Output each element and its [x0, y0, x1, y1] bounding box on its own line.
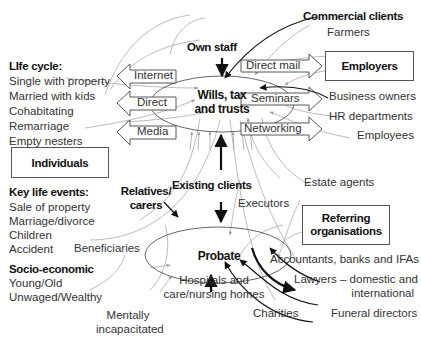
- channel-networking: Networking: [244, 122, 302, 134]
- estate-agents-label: Estate agents: [304, 175, 374, 189]
- channel-internet: Internet: [134, 69, 173, 81]
- channel-direct-mail: Direct mail: [246, 59, 300, 71]
- referring-organisations-box: Referring organisations: [302, 205, 390, 245]
- life-cycle-heading: LIfe cycle:: [9, 59, 62, 73]
- socio-economic-heading: Socio-economic: [9, 262, 94, 276]
- commercial-business-owners: Business owners: [329, 89, 416, 103]
- hospitals-line-1: Hospitals and: [158, 273, 270, 287]
- wills-line-1: Wills, tax: [190, 88, 254, 102]
- own-staff-label: Own staff: [187, 40, 237, 54]
- referring-line-1: Referring: [322, 212, 370, 225]
- existing-clients-label: Existing clients: [172, 178, 252, 192]
- employers-box: Employers: [325, 51, 414, 81]
- mentally-line-1: Mentally: [96, 308, 160, 322]
- lawyers-line-1: Lawyers – domestic and: [294, 272, 414, 286]
- accountants-label: Accountants, banks and IFAs: [270, 252, 419, 266]
- commercial-employees: Employees: [357, 128, 414, 142]
- wills-line-2: and trusts: [190, 102, 254, 116]
- funeral-directors-label: Funeral directors: [331, 306, 417, 320]
- referring-line-2: organisations: [310, 225, 382, 238]
- lawyers-label: Lawyers – domestic and international: [294, 272, 414, 300]
- commercial-clients-heading: Commercial clients: [303, 9, 403, 23]
- hospitals-line-2: care/nursing homes: [158, 287, 270, 301]
- life-cycle-item: Cohabitating: [9, 104, 74, 118]
- socio-economic-item: Unwaged/Wealthy: [9, 290, 102, 304]
- channel-direct: Direct: [137, 96, 167, 108]
- wills-hub-title: Wills, tax and trusts: [190, 88, 254, 116]
- relatives-carers-label: Relatives/ carers: [116, 184, 176, 212]
- key-life-events-heading: Key life events:: [9, 185, 89, 199]
- mentally-incapacitated-label: Mentally incapacitated: [96, 308, 160, 336]
- relatives-line-1: Relatives/: [116, 184, 176, 198]
- key-life-event-item: Marriage/divorce: [9, 214, 95, 228]
- individuals-box: Individuals: [11, 147, 109, 178]
- channel-media: Media: [137, 125, 168, 137]
- channel-seminars: Seminars: [251, 92, 300, 104]
- life-cycle-item: Empty nesters: [9, 134, 83, 148]
- mentally-line-2: incapacitated: [96, 322, 160, 336]
- employers-label: Employers: [341, 60, 397, 72]
- commercial-hr-departments: HR departments: [329, 109, 413, 123]
- key-life-event-item: Accident: [9, 242, 53, 256]
- commercial-farmers: Farmers: [327, 25, 370, 39]
- key-life-event-item: Children: [9, 228, 52, 242]
- key-life-event-item: Sale of property: [9, 200, 90, 214]
- lawyers-line-2: international: [294, 286, 414, 300]
- individuals-label: Individuals: [32, 157, 89, 169]
- executors-label: Executors: [238, 196, 289, 210]
- socio-economic-item: Young/Old: [9, 276, 62, 290]
- relatives-line-2: carers: [116, 198, 176, 212]
- life-cycle-item: Single with property: [9, 74, 110, 88]
- beneficiaries-label: Beneficiaries: [74, 241, 140, 255]
- hospitals-label: Hospitals and care/nursing homes: [158, 273, 270, 301]
- life-cycle-item: Married with kids: [9, 89, 95, 103]
- charities-label: Charities: [253, 306, 298, 320]
- probate-hub-title: Probate: [190, 249, 248, 263]
- life-cycle-item: Remarriage: [9, 119, 69, 133]
